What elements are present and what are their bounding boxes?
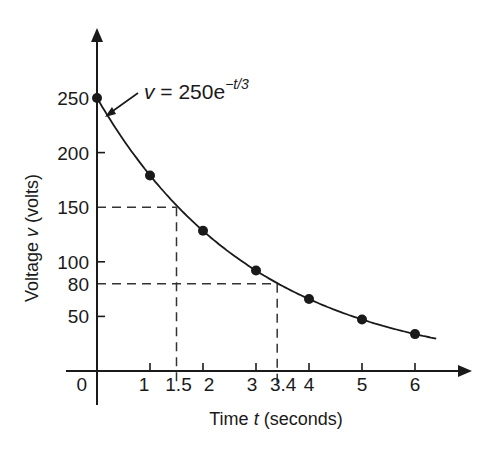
data-point bbox=[410, 329, 420, 339]
y-tick-label: 200 bbox=[57, 143, 89, 164]
x-axis-title: Time t (seconds) bbox=[209, 409, 342, 429]
equation-label: v = 250e−t/3 bbox=[144, 76, 249, 103]
x-tick-label: 3 bbox=[247, 374, 258, 395]
x-tick-label: 3.4 bbox=[270, 374, 297, 395]
reference-lines bbox=[97, 207, 277, 383]
x-ticks: 11.5233.4456 bbox=[139, 363, 421, 395]
y-tick-label: 100 bbox=[57, 252, 89, 273]
origin-label: 0 bbox=[76, 374, 87, 395]
y-tick-label: 150 bbox=[57, 197, 89, 218]
data-point bbox=[357, 314, 367, 324]
y-tick-label: 50 bbox=[68, 306, 89, 327]
exponential-decay-chart: 11.5233.4456 5080100150200250 0 Time t (… bbox=[0, 0, 492, 455]
annotation-arrow-line bbox=[110, 93, 138, 113]
y-tick-label: 250 bbox=[57, 88, 89, 109]
x-tick-label: 2 bbox=[204, 374, 215, 395]
x-axis-arrow-icon bbox=[458, 365, 472, 377]
data-points bbox=[92, 93, 420, 339]
x-tick-label: 1.5 bbox=[165, 374, 191, 395]
decay-curve bbox=[97, 98, 436, 339]
x-tick-label: 1 bbox=[139, 374, 150, 395]
axes bbox=[66, 28, 472, 405]
data-point bbox=[92, 93, 102, 103]
x-tick-label: 4 bbox=[304, 374, 315, 395]
data-point bbox=[198, 226, 208, 236]
y-tick-label: 80 bbox=[68, 274, 89, 295]
data-point bbox=[145, 170, 155, 180]
y-axis-title: Voltage v (volts) bbox=[22, 174, 42, 302]
x-tick-label: 6 bbox=[410, 374, 421, 395]
y-axis-arrow-icon bbox=[91, 28, 103, 42]
x-tick-label: 5 bbox=[357, 374, 368, 395]
equation-annotation: v = 250e−t/3 bbox=[105, 76, 249, 117]
annotation-arrowhead-icon bbox=[105, 107, 116, 117]
data-point bbox=[251, 266, 261, 276]
data-point bbox=[304, 294, 314, 304]
